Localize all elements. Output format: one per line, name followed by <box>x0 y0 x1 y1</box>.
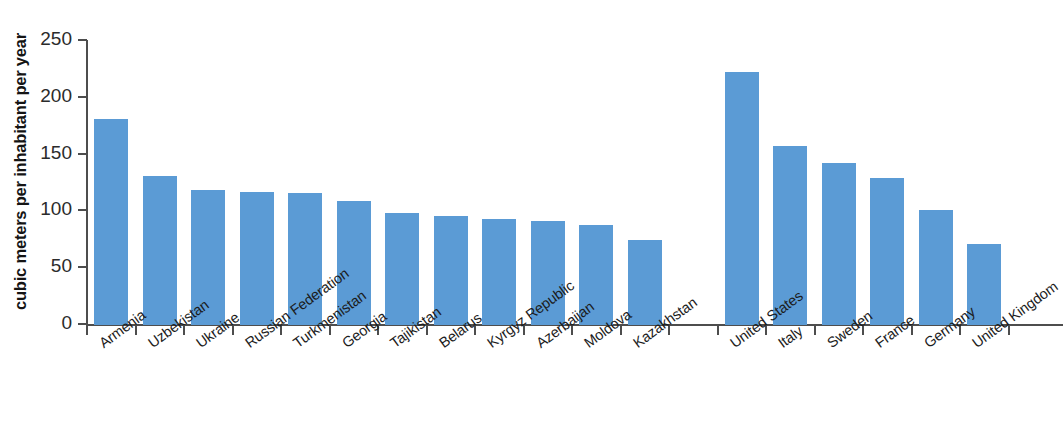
bar <box>482 219 516 325</box>
bar <box>94 119 128 325</box>
x-axis-tick-mark <box>717 326 719 335</box>
x-axis-label: Italy <box>775 323 806 351</box>
bar <box>725 72 759 325</box>
bars-layer <box>86 40 1063 325</box>
bar <box>385 213 419 325</box>
y-axis-tick-label: 100 <box>0 198 72 220</box>
bar <box>143 176 177 325</box>
bar <box>919 210 953 325</box>
x-axis-tick-mark <box>814 326 816 335</box>
y-axis-tick-label: 0 <box>0 312 72 334</box>
bar-chart: cubic meters per inhabitant per year 050… <box>0 0 1063 448</box>
bar <box>240 192 274 325</box>
y-axis-tick-label: 250 <box>0 28 72 50</box>
bar <box>870 178 904 325</box>
x-axis-tick-mark <box>86 326 88 335</box>
bar <box>628 240 662 325</box>
y-axis-tick-label: 200 <box>0 85 72 107</box>
bar <box>822 163 856 325</box>
y-axis-tick-label: 50 <box>0 255 72 277</box>
y-axis-tick-label: 150 <box>0 142 72 164</box>
y-axis-title: cubic meters per inhabitant per year <box>11 7 30 337</box>
x-axis-ticks: ArmeniaUzbekistanUkraineRussian Federati… <box>86 326 1063 448</box>
